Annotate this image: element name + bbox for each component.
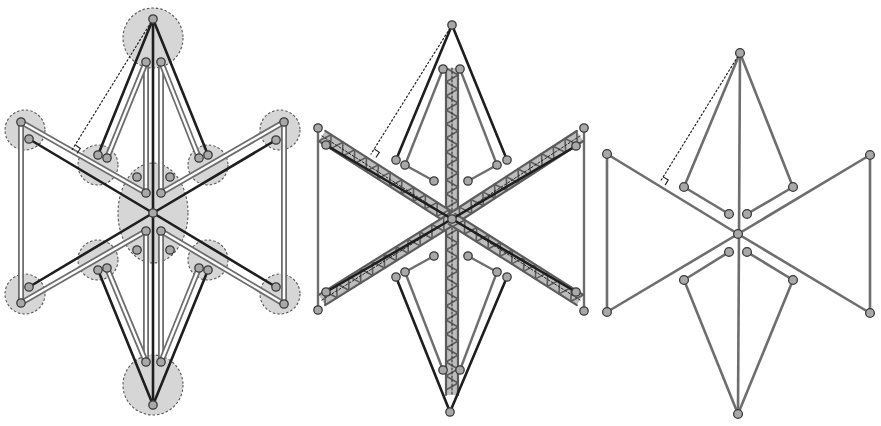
- pin-joint: [493, 268, 501, 276]
- pin-joint: [157, 58, 165, 66]
- pin-joint: [725, 210, 734, 219]
- pin-joint: [866, 151, 875, 160]
- pin-joint: [439, 65, 447, 73]
- pin-joint: [94, 151, 102, 159]
- pin-joint: [142, 58, 150, 66]
- pin-joint: [789, 276, 798, 285]
- pin-joint: [680, 183, 689, 192]
- pin-joint: [464, 252, 472, 260]
- pin-joint: [439, 366, 447, 374]
- pin-joint: [572, 288, 580, 296]
- pin-joint: [25, 135, 33, 143]
- pin-joint: [493, 161, 501, 169]
- pin-joint: [166, 173, 174, 181]
- pin-joint: [430, 177, 438, 185]
- pin-joint: [430, 252, 438, 260]
- pin-joint: [157, 189, 165, 197]
- pin-joint: [580, 307, 588, 315]
- pin-joint: [603, 150, 612, 159]
- pin-joint: [503, 273, 511, 281]
- linkage-diagram: [0, 0, 881, 426]
- pin-joint: [743, 248, 752, 257]
- pin-joint: [133, 173, 141, 181]
- pin-joint: [204, 266, 212, 274]
- pin-joint: [142, 189, 150, 197]
- pin-joint: [195, 154, 203, 162]
- pin-joint: [448, 215, 456, 223]
- pin-joint: [456, 366, 464, 374]
- pin-joint: [17, 118, 25, 126]
- pin-joint: [789, 183, 798, 192]
- pin-joint: [456, 65, 464, 73]
- pin-joint: [392, 273, 400, 281]
- pin-joint: [322, 288, 330, 296]
- pin-joint: [149, 209, 157, 217]
- pin-joint: [680, 276, 689, 285]
- pin-joint: [392, 156, 400, 164]
- pin-joint: [580, 124, 588, 132]
- pin-joint: [314, 124, 322, 132]
- pin-joint: [17, 299, 25, 307]
- pin-joint: [743, 210, 752, 219]
- pin-joint: [25, 283, 33, 291]
- pin-joint: [272, 283, 280, 291]
- pin-joint: [322, 141, 330, 149]
- pin-joint: [142, 227, 150, 235]
- pin-joint: [734, 230, 743, 239]
- pin-joint: [157, 227, 165, 235]
- pin-joint: [195, 264, 203, 272]
- pin-joint: [149, 15, 157, 23]
- pin-joint: [157, 358, 165, 366]
- pin-joint: [572, 142, 580, 150]
- pin-joint: [149, 401, 157, 409]
- pin-joint: [272, 136, 280, 144]
- pin-joint: [725, 248, 734, 257]
- truss-beam: [446, 68, 458, 395]
- pin-joint: [204, 151, 212, 159]
- pin-joint: [142, 358, 150, 366]
- pin-joint: [734, 410, 743, 419]
- pin-joint: [103, 154, 111, 162]
- pin-joint: [280, 300, 288, 308]
- pin-joint: [736, 49, 745, 58]
- pin-joint: [401, 268, 409, 276]
- pin-joint: [446, 408, 454, 416]
- pin-joint: [603, 308, 612, 317]
- pin-joint: [166, 246, 174, 254]
- pin-joint: [133, 246, 141, 254]
- pin-joint: [866, 309, 875, 318]
- pin-joint: [314, 306, 322, 314]
- pin-joint: [103, 264, 111, 272]
- pin-joint: [503, 156, 511, 164]
- pin-joint: [464, 177, 472, 185]
- pin-joint: [280, 118, 288, 126]
- pin-joint: [401, 161, 409, 169]
- pin-joint: [448, 21, 456, 29]
- pin-joint: [94, 266, 102, 274]
